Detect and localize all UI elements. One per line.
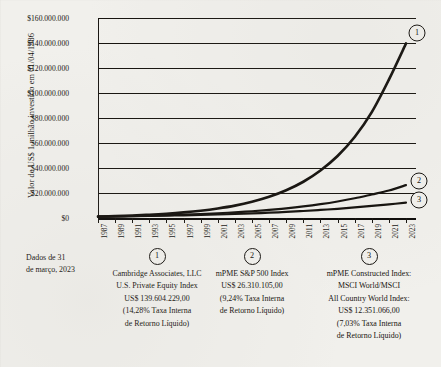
x-axis-tick xyxy=(201,218,202,223)
investment-growth-chart: Valor de US$ 1 milhão investido em 01/04… xyxy=(0,0,441,367)
legend-text-line: mPME Constructed Index: xyxy=(304,268,434,280)
x-axis-tick-label: 1995 xyxy=(169,224,177,238)
x-axis-tick-label: 2005 xyxy=(255,224,263,238)
legend-text-line: US$ 12.351.066,00 xyxy=(304,305,434,317)
y-axis-title: Valor de US$ 1 milhão investido em 01/04… xyxy=(27,16,36,216)
chart-legend: Dados de 31 de março, 2023 1Cambridge As… xyxy=(0,248,441,367)
legend-text-line: All Country World Index: xyxy=(304,293,434,305)
x-axis-tick xyxy=(372,218,373,223)
data-note-line-1: Dados de 31 xyxy=(26,252,104,264)
legend-entry-3: 3mPME Constructed Index:MSCI World/MSCIA… xyxy=(304,248,434,342)
x-axis-tick xyxy=(132,218,133,223)
x-axis-tick-label: 2013 xyxy=(323,224,331,238)
legend-text-line: mPME S&P 500 Index xyxy=(196,268,308,280)
x-axis-tick xyxy=(338,218,339,223)
legend-text-line: (9,24% Taxa Interna xyxy=(196,293,308,305)
series-line-1 xyxy=(98,43,406,216)
x-axis-tick xyxy=(235,218,236,223)
y-axis-tick-label: $0 xyxy=(61,214,69,223)
legend-text-line: de Retorno Líquido) xyxy=(196,305,308,317)
x-axis-tick-label: 1987 xyxy=(101,224,109,238)
x-axis-tick-label: 2019 xyxy=(375,224,383,238)
x-axis-tick xyxy=(286,218,287,223)
x-axis-tick-label: 1993 xyxy=(152,224,160,238)
x-axis-tick xyxy=(252,218,253,223)
series-curves xyxy=(98,18,416,218)
endpoint-marker-2: 2 xyxy=(411,173,428,190)
x-axis-tick-label: 1991 xyxy=(135,224,143,238)
legend-marker-2: 2 xyxy=(244,248,261,265)
legend-marker-1: 1 xyxy=(149,248,166,265)
x-axis-tick xyxy=(355,218,356,223)
x-axis-tick xyxy=(184,218,185,223)
x-axis-tick xyxy=(166,218,167,223)
x-axis-tick xyxy=(149,218,150,223)
x-axis-tick-label: 2003 xyxy=(238,224,246,238)
x-axis-tick-label: 2009 xyxy=(289,224,297,238)
x-axis-tick xyxy=(303,218,304,223)
endpoint-marker-3: 3 xyxy=(411,191,428,208)
legend-entry-2: 2mPME S&P 500 IndexUS$ 26.310.105,00(9,2… xyxy=(196,248,308,318)
x-axis-tick-label: 1997 xyxy=(187,224,195,238)
legend-text-line: US$ 26.310.105,00 xyxy=(196,280,308,292)
endpoint-marker-1: 1 xyxy=(409,25,426,42)
plot-area: $160.000.000$140.000.000$120.000.000$100… xyxy=(98,18,416,218)
x-axis-tick xyxy=(269,218,270,223)
x-axis-tick-label: 2007 xyxy=(272,224,280,238)
x-axis-tick xyxy=(218,218,219,223)
x-axis-tick xyxy=(115,218,116,223)
data-note-line-2: de março, 2023 xyxy=(26,264,104,276)
y-axis-tick-label: $60.000.000 xyxy=(31,139,69,148)
data-as-of-note: Dados de 31 de março, 2023 xyxy=(26,252,104,275)
y-axis-tick-label: $80.000.000 xyxy=(31,114,69,123)
x-axis-tick-label: 2021 xyxy=(392,224,400,238)
x-axis-tick-label: 2001 xyxy=(221,224,229,238)
x-axis-tick-label: 1989 xyxy=(118,224,126,238)
legend-text-line: de Retorno Líquido) xyxy=(304,330,434,342)
legend-marker-3: 3 xyxy=(361,248,378,265)
x-axis-tick-label: 2017 xyxy=(358,224,366,238)
legend-text-line: MSCI World/MSCI xyxy=(304,280,434,292)
x-axis-tick xyxy=(406,218,407,223)
x-axis-tick-label: 2011 xyxy=(306,224,314,238)
y-axis-tick-label: $20.000.000 xyxy=(31,189,69,198)
y-axis-tick-label: $40.000.000 xyxy=(31,164,69,173)
x-axis-tick-label: 2015 xyxy=(341,224,349,238)
x-axis-tick-label: 1999 xyxy=(204,224,212,238)
x-axis-tick xyxy=(389,218,390,223)
x-axis-tick xyxy=(98,218,99,223)
x-axis-tick xyxy=(320,218,321,223)
x-axis-tick-label: 2023 xyxy=(409,224,417,238)
legend-text-line: (7,03% Taxa Interna xyxy=(304,318,434,330)
gridline xyxy=(98,218,416,220)
legend-text-line: de Retorno Líquido) xyxy=(98,318,216,330)
